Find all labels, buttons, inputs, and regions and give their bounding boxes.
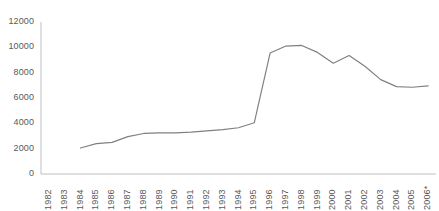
- plot-area: [0, 0, 439, 211]
- axis-lines: [41, 22, 436, 174]
- line-chart: 020004000600080001000012000 198219831984…: [0, 0, 439, 211]
- data-series-line: [81, 45, 429, 148]
